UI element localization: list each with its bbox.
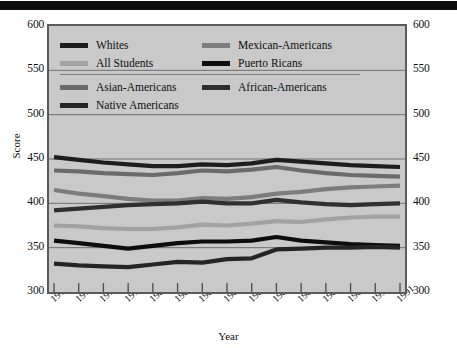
legend-item: Whites (60, 39, 202, 51)
y-tick-label: 450 (413, 151, 430, 163)
legend-item: Native Americans (60, 99, 202, 111)
legend-label: Mexican-Americans (238, 39, 332, 51)
header-bar (0, 1, 457, 10)
legend-swatch-icon (60, 61, 88, 66)
legend-row: Native Americans (60, 96, 360, 114)
legend-label: All Students (96, 57, 153, 69)
y-tick-label: 400 (27, 195, 44, 207)
legend-row: WhitesMexican-Americans (60, 36, 360, 54)
series-line (54, 200, 400, 211)
y-tick-label: 500 (413, 107, 430, 119)
legend-label: Asian-Americans (96, 81, 176, 93)
legend-swatch-icon (202, 85, 230, 90)
y-axis-label: Score (10, 116, 22, 176)
x-axis-label: Year (0, 330, 457, 342)
legend-row: Asian-AmericansAfrican-Americans (60, 78, 360, 96)
legend-divider (60, 74, 360, 75)
y-tick-label: 600 (413, 18, 430, 30)
legend-swatch-icon (202, 43, 230, 48)
y-tick-label: 500 (27, 107, 44, 119)
legend-swatch-icon (202, 61, 230, 66)
legend-swatch-icon (60, 43, 88, 48)
legend-swatch-icon (60, 103, 88, 108)
chart-legend: WhitesMexican-AmericansAll StudentsPuert… (60, 36, 360, 114)
legend-item: All Students (60, 57, 202, 69)
y-tick-label: 450 (27, 151, 44, 163)
y-tick-label: 350 (413, 240, 430, 252)
legend-label: Whites (96, 39, 129, 51)
legend-label: Puerto Ricans (238, 57, 302, 69)
y-tick-label: 550 (27, 62, 44, 74)
series-line (54, 247, 400, 267)
legend-item: Puerto Ricans (202, 57, 360, 69)
y-tick-label: 600 (27, 18, 44, 30)
series-line (54, 186, 400, 201)
y-tick-label: 350 (27, 240, 44, 252)
chart-figure: Score Year 600550500450400350300 6005505… (0, 12, 457, 348)
y-tick-label: 550 (413, 62, 430, 74)
legend-swatch-icon (60, 85, 88, 90)
legend-label: Native Americans (96, 99, 179, 111)
y-tick-label: 400 (413, 195, 430, 207)
legend-item: Asian-Americans (60, 81, 202, 93)
legend-item: African-Americans (202, 81, 360, 93)
legend-row: All StudentsPuerto Ricans (60, 54, 360, 72)
y-tick-label: 300 (27, 284, 44, 296)
legend-item: Mexican-Americans (202, 39, 360, 51)
series-line (54, 167, 400, 177)
series-line (54, 217, 400, 229)
legend-label: African-Americans (238, 81, 327, 93)
